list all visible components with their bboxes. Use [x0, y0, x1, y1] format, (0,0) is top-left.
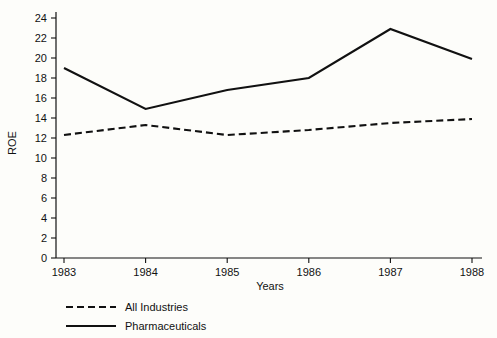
- y-tick-label: 2: [41, 232, 47, 244]
- chart-container: 024681012141618202224 198319841985198619…: [0, 0, 497, 338]
- x-tick-label: 1984: [133, 266, 157, 278]
- y-axis-tick-labels: 024681012141618202224: [35, 12, 47, 264]
- y-tick-label: 24: [35, 12, 47, 24]
- x-axis-ticks: [64, 258, 472, 263]
- y-tick-label: 10: [35, 152, 47, 164]
- x-tick-label: 1986: [297, 266, 321, 278]
- y-tick-label: 14: [35, 112, 47, 124]
- series-group: [64, 29, 472, 135]
- y-tick-label: 8: [41, 172, 47, 184]
- series-line-pharmaceuticals: [64, 29, 472, 109]
- y-tick-label: 12: [35, 132, 47, 144]
- x-tick-label: 1987: [378, 266, 402, 278]
- x-tick-label: 1983: [52, 266, 76, 278]
- y-axis-title: ROE: [6, 131, 18, 155]
- chart-legend: All IndustriesPharmaceuticals: [66, 301, 207, 332]
- line-chart: 024681012141618202224 198319841985198619…: [0, 0, 497, 338]
- x-tick-label: 1988: [460, 266, 484, 278]
- y-tick-label: 18: [35, 72, 47, 84]
- y-tick-label: 4: [41, 212, 47, 224]
- y-tick-label: 6: [41, 192, 47, 204]
- y-tick-label: 0: [41, 252, 47, 264]
- series-line-all-industries: [64, 119, 472, 135]
- x-axis-tick-labels: 198319841985198619871988: [52, 266, 484, 278]
- x-tick-label: 1985: [215, 266, 239, 278]
- y-tick-label: 22: [35, 32, 47, 44]
- y-tick-label: 20: [35, 52, 47, 64]
- x-axis-title: Years: [256, 280, 284, 292]
- y-tick-label: 16: [35, 92, 47, 104]
- y-axis-ticks: [51, 18, 56, 258]
- legend-label-pharmaceuticals: Pharmaceuticals: [125, 320, 207, 332]
- legend-label-all-industries: All Industries: [125, 301, 188, 313]
